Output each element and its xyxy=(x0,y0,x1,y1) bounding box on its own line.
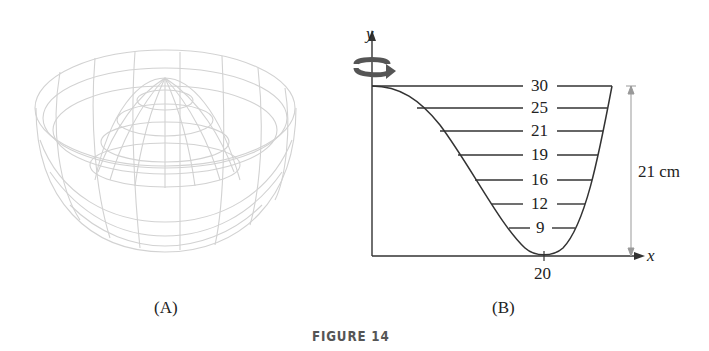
x-tick-label: 20 xyxy=(534,264,551,284)
panel-a-label: (A) xyxy=(154,298,178,318)
chord-label-25: 25 xyxy=(531,98,548,118)
chords xyxy=(372,86,612,228)
bowl-wireframe xyxy=(35,50,296,252)
profile-curve xyxy=(372,86,612,255)
figure-caption: FIGURE 14 xyxy=(312,328,390,344)
chord-label-21: 21 xyxy=(531,121,548,141)
height-dimension xyxy=(626,86,636,256)
x-axis-label: x xyxy=(647,246,655,266)
chord-label-12: 12 xyxy=(531,194,548,214)
x-axis-arrow-icon xyxy=(634,252,645,260)
panel-b-label: (B) xyxy=(492,298,515,318)
figure-canvas xyxy=(0,0,709,351)
chord-label-30: 30 xyxy=(531,76,548,96)
rotation-arrow-icon xyxy=(356,60,396,80)
y-axis-label: y xyxy=(366,24,374,44)
chord-label-9: 9 xyxy=(536,218,545,238)
profile-diagram xyxy=(356,30,645,261)
chord-label-16: 16 xyxy=(531,170,548,190)
chord-label-19: 19 xyxy=(531,145,548,165)
height-label: 21 cm xyxy=(638,162,680,182)
